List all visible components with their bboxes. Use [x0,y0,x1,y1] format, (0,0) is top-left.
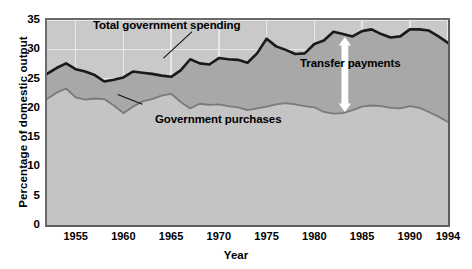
annotation-government-purchases: Government purchases [155,113,281,125]
x-tick-label: 1980 [292,230,336,242]
x-tick-label: 1960 [101,230,145,242]
annotation-total-government-spending: Total government spending [93,19,240,31]
y-tick-label: 30 [10,42,40,54]
y-tick-label: 10 [10,159,40,171]
y-tick-label: 20 [10,101,40,113]
x-tick-label: 1970 [197,230,241,242]
annotation-transfer-payments: Transfer payments [300,57,401,69]
x-tick-label: 1985 [340,230,384,242]
x-tick-label: 1965 [149,230,193,242]
y-tick-label: 35 [10,13,40,25]
y-tick-label: 25 [10,72,40,84]
x-tick-label: 1955 [54,230,98,242]
chart-figure: Percentage of domestic output 0510152025… [0,0,472,269]
y-tick-label: 0 [10,218,40,230]
x-tick-label: 1994 [426,230,470,242]
x-axis-title: Year [0,249,472,261]
y-axis-ticks: 05101520253035 [6,0,40,269]
y-tick-label: 15 [10,130,40,142]
y-tick-label: 5 [10,189,40,201]
x-tick-label: 1975 [245,230,289,242]
